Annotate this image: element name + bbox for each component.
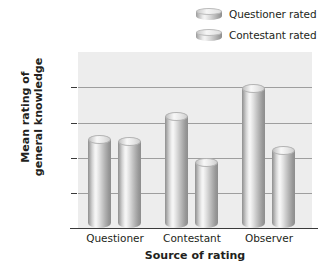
y-axis-title: Mean rating of general knowledge [19, 37, 45, 197]
x-tick-label-observer: Observer [224, 232, 314, 244]
bar-chart-figure: Questioner rated Contestant rated Mean r… [0, 0, 332, 268]
legend-label: Contestant rated [229, 30, 317, 41]
y-tick-mark [71, 158, 77, 159]
gridline-80 [78, 87, 312, 88]
y-tick-mark [71, 87, 77, 88]
cylinder-swatch-icon [196, 8, 222, 21]
y-axis-title-line2: general knowledge [32, 37, 45, 197]
bar-observer-contestant-rated [272, 146, 295, 228]
bar-contestant-questioner-rated [165, 112, 188, 228]
legend-label: Questioner rated [229, 9, 316, 20]
y-tick-mark [71, 123, 77, 124]
cylinder-swatch-icon [196, 29, 222, 42]
chart-legend: Questioner rated Contestant rated [196, 4, 332, 46]
legend-item-contestant-rated: Contestant rated [196, 25, 332, 46]
bar-observer-questioner-rated [242, 84, 265, 228]
bar-questioner-contestant-rated [118, 137, 141, 228]
plot-area [78, 52, 312, 228]
x-axis-title: Source of rating [78, 249, 312, 262]
y-axis-title-line1: Mean rating of [19, 37, 32, 197]
legend-item-questioner-rated: Questioner rated [196, 4, 332, 25]
bar-contestant-contestant-rated [195, 158, 218, 228]
y-tick-mark [71, 193, 77, 194]
bar-questioner-questioner-rated [88, 135, 111, 228]
x-axis-line [70, 228, 318, 229]
gridline-60 [78, 123, 312, 124]
